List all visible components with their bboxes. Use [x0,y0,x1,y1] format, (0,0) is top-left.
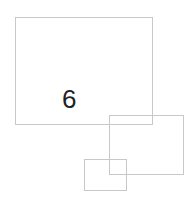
number-label: 6 [62,86,76,112]
small-rectangle [84,159,127,191]
large-rectangle [15,17,153,125]
